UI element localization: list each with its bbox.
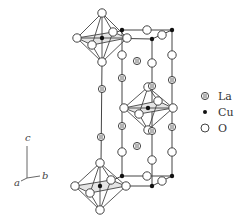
legend-item-cu: Cu <box>198 105 234 119</box>
legend-label: La <box>218 90 232 103</box>
o-atom-icon <box>198 121 212 135</box>
axis-label-b: b <box>42 170 48 181</box>
axis-label-a: a <box>14 177 20 188</box>
axis-label-c: c <box>25 132 31 143</box>
cu-atom-icon <box>198 105 212 119</box>
legend-item-o: O <box>198 121 227 135</box>
la-atom-icon <box>198 89 212 103</box>
legend-label: O <box>218 122 227 135</box>
axis-indicator <box>21 146 40 181</box>
legend-item-la: La <box>198 89 232 103</box>
legend-label: Cu <box>218 106 234 119</box>
